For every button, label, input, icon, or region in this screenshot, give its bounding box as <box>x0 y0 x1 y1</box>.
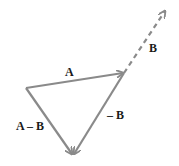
vector-a-arrow <box>26 73 123 88</box>
vector-diagram: A B – B A – B <box>0 0 179 166</box>
label-a-minus-b: A – B <box>16 119 44 133</box>
label-a: A <box>65 65 74 79</box>
label-neg-b: – B <box>106 108 124 122</box>
label-b: B <box>149 41 157 55</box>
vector-b-dashed-arrow <box>124 11 165 73</box>
